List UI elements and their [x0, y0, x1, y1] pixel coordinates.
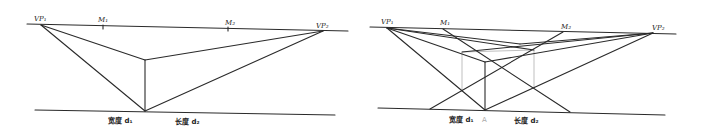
length-label: 长度 d₂ — [175, 117, 200, 126]
vp2-to-top — [145, 31, 323, 60]
perspective-diagram: VP₁ M₁ M₂ VP₂ 宽度 d₁ 长度 d₂ VP₁ M₁ M₂ VP₂ — [0, 0, 701, 131]
vp2-to-base — [145, 31, 323, 111]
vp1-to-top — [387, 28, 485, 62]
m2-measuring-line — [430, 32, 563, 109]
right-panel: VP₁ M₁ M₂ VP₂ 宽度 d₁ A 长度 d₂ — [370, 18, 676, 125]
m2-label: M₂ — [560, 23, 571, 31]
vp1-to-top — [41, 25, 145, 60]
ground-line — [378, 108, 665, 115]
vp2-label: VP₂ — [652, 24, 665, 32]
length-label: 长度 d₂ — [514, 116, 539, 125]
vp1-label: VP₁ — [34, 15, 47, 23]
vp1-to-base — [41, 25, 145, 111]
m1-label: M₁ — [439, 19, 450, 27]
horizon-line — [370, 27, 676, 34]
vp2-label: VP₂ — [316, 22, 329, 30]
left-panel: VP₁ M₁ M₂ VP₂ 宽度 d₁ 长度 d₂ — [27, 15, 348, 126]
width-label: 宽度 d₁ — [107, 116, 133, 125]
point-a-label: A — [482, 116, 487, 124]
width-label: 宽度 d₁ — [448, 115, 474, 124]
vp2-to-base — [485, 33, 653, 110]
m2-label: M₂ — [224, 19, 235, 27]
horizon-line — [27, 24, 348, 31]
m1-label: M₁ — [97, 16, 108, 24]
ground-line — [35, 110, 335, 115]
vp1-label: VP₁ — [381, 18, 394, 26]
